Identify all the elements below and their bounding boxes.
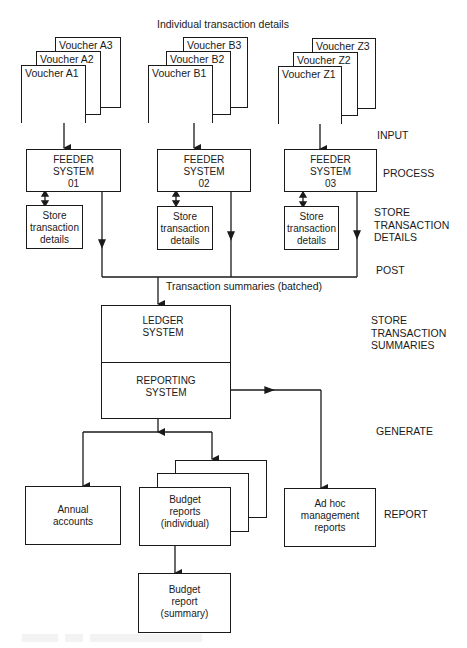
annual-accounts: Annual accounts	[25, 486, 121, 545]
ledger-system: LEDGER SYSTEM	[101, 305, 231, 363]
stage-generate: GENERATE	[376, 425, 433, 438]
stage-post: POST	[376, 264, 405, 277]
feeder-system-03: FEEDER SYSTEM 03	[284, 149, 377, 192]
adhoc-management-reports: Ad hoc management reports	[284, 488, 376, 547]
voucher-b1: Voucher B1	[148, 65, 213, 123]
voucher-a1: Voucher A1	[21, 65, 86, 123]
feeder-system-01: FEEDER SYSTEM 01	[26, 149, 121, 192]
stage-store-details: STORE TRANSACTION DETAILS	[374, 206, 449, 244]
feeder-system-02: FEEDER SYSTEM 02	[157, 149, 251, 192]
store-transaction-details-02: Store transaction details	[157, 206, 213, 250]
transaction-summaries-label: Transaction summaries (batched)	[166, 280, 322, 293]
budget-reports-individual: Budget reports (individual)	[139, 487, 231, 546]
stage-store-summaries: STORE TRANSACTION SUMMARIES	[371, 314, 446, 352]
figure-caption-blurred	[22, 634, 202, 642]
voucher-z1: Voucher Z1	[278, 66, 342, 124]
stage-report: REPORT	[384, 508, 428, 521]
store-transaction-details-03: Store transaction details	[284, 206, 339, 250]
accounting-flow-diagram: Individual transaction details Voucher A…	[0, 0, 467, 648]
stage-input: INPUT	[377, 129, 409, 142]
store-transaction-details-01: Store transaction details	[26, 205, 83, 249]
reporting-system: REPORTING SYSTEM	[101, 362, 231, 419]
individual-transaction-details-label: Individual transaction details	[157, 18, 289, 31]
stage-process: PROCESS	[383, 167, 434, 180]
budget-report-summary: Budget report (summary)	[138, 573, 231, 633]
